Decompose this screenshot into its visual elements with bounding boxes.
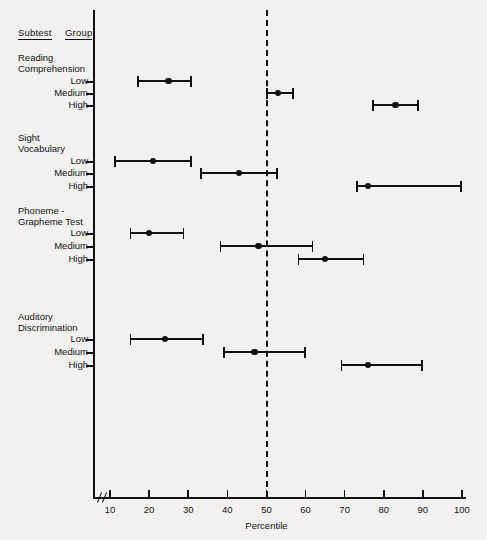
interval-cap-low <box>130 334 132 345</box>
median-point <box>146 230 153 237</box>
interval-cap-low <box>130 228 132 239</box>
y-axis-line <box>93 10 95 497</box>
interval-cap-high <box>292 88 294 99</box>
interval-cap-low <box>298 254 300 265</box>
interval-cap-high <box>304 347 306 358</box>
x-axis-tick <box>461 490 463 497</box>
x-axis-tick <box>227 490 229 497</box>
x-axis-tick-label: 20 <box>129 504 169 515</box>
reference-line-50 <box>266 10 268 497</box>
interval-cap-high <box>421 360 423 371</box>
x-axis-tick-label: 40 <box>207 504 247 515</box>
interval-cap-high <box>190 156 192 167</box>
interval-cap-high <box>312 241 314 252</box>
median-point <box>255 243 262 250</box>
median-point <box>162 336 169 343</box>
group-label-medium: Medium <box>0 87 88 98</box>
x-axis-tick-label: 30 <box>168 504 208 515</box>
x-axis-tick-label: 70 <box>325 504 365 515</box>
x-axis-tick <box>422 490 424 497</box>
subtest-label: Grapheme Test <box>18 216 83 227</box>
subtest-label: Comprehension <box>18 63 85 74</box>
interval-cap-low <box>114 156 116 167</box>
median-point <box>392 102 399 109</box>
median-point <box>365 362 372 369</box>
subtest-label: Phoneme - <box>18 205 64 216</box>
interval-cap-high <box>460 181 462 192</box>
median-point <box>165 78 172 85</box>
x-axis-tick-label: 80 <box>364 504 404 515</box>
group-label-high: High <box>0 359 88 370</box>
x-axis-tick-label: 90 <box>403 504 443 515</box>
interval-cap-high <box>363 254 365 265</box>
median-point <box>275 90 282 97</box>
interval-cap-low <box>220 241 222 252</box>
subtest-label: Discrimination <box>18 322 78 333</box>
subtest-label: Sight <box>18 132 40 143</box>
x-axis-tick-label: 50 <box>246 504 286 515</box>
subtest-label: Vocabulary <box>18 143 65 154</box>
subtest-label: Auditory <box>18 311 53 322</box>
column-header-subtest: Subtest <box>18 27 52 40</box>
interval-cap-low <box>372 100 374 111</box>
chart-figure: Subtest Group ReadingComprehensionSightV… <box>0 0 487 540</box>
x-axis-tick-label: 100 <box>442 504 482 515</box>
median-point <box>322 256 329 263</box>
interval-cap-low <box>356 181 358 192</box>
x-axis-tick <box>148 490 150 497</box>
group-label-low: Low <box>0 155 88 166</box>
column-header-group: Group <box>65 27 92 40</box>
interval-cap-high <box>276 168 278 179</box>
median-point <box>150 158 157 165</box>
confidence-interval-line <box>130 232 185 234</box>
median-point <box>251 349 258 356</box>
group-label-medium: Medium <box>0 167 88 178</box>
interval-cap-low <box>200 168 202 179</box>
interval-cap-low <box>341 360 343 371</box>
confidence-interval-line <box>356 185 462 187</box>
group-label-medium: Medium <box>0 346 88 357</box>
x-axis-tick <box>305 490 307 497</box>
group-label-low: Low <box>0 75 88 86</box>
interval-cap-low <box>223 347 225 358</box>
group-label-medium: Medium <box>0 240 88 251</box>
x-axis-tick-label: 10 <box>90 504 130 515</box>
interval-cap-high <box>183 228 185 239</box>
x-axis-tick <box>187 490 189 497</box>
confidence-interval-line <box>223 351 305 353</box>
subtest-label: Reading <box>18 52 53 63</box>
x-axis-title: Percentile <box>206 520 326 531</box>
x-axis-tick-label: 60 <box>286 504 326 515</box>
median-point <box>236 170 243 177</box>
confidence-interval-line <box>298 258 364 260</box>
group-label-low: Low <box>0 227 88 238</box>
confidence-interval-line <box>341 364 423 366</box>
median-point <box>365 183 372 190</box>
interval-cap-high <box>417 100 419 111</box>
x-axis-tick <box>109 490 111 497</box>
interval-cap-low <box>137 76 139 87</box>
group-label-high: High <box>0 253 88 264</box>
x-axis-line <box>93 497 466 499</box>
group-label-high: High <box>0 99 88 110</box>
interval-cap-high <box>202 334 204 345</box>
x-axis-tick <box>383 490 385 497</box>
x-axis-tick <box>344 490 346 497</box>
interval-cap-high <box>190 76 192 87</box>
group-label-low: Low <box>0 333 88 344</box>
group-label-high: High <box>0 180 88 191</box>
x-axis-tick <box>266 490 268 497</box>
